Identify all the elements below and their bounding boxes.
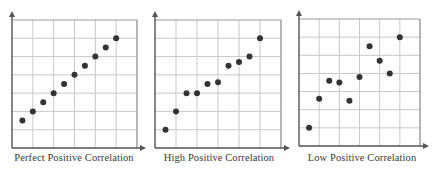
chart-panel-low: Low Positive Correlation [290, 0, 434, 171]
data-points [306, 34, 403, 131]
data-point [346, 98, 352, 104]
data-point [103, 44, 109, 50]
data-point [194, 90, 200, 96]
data-point [236, 59, 242, 65]
chart-caption-low: Low Positive Correlation [290, 152, 434, 163]
data-points [163, 35, 264, 132]
data-point [92, 54, 98, 60]
y-axis-arrow-icon [152, 11, 158, 17]
data-point [226, 63, 232, 69]
data-point [377, 58, 383, 64]
data-point [215, 79, 221, 85]
data-point [163, 127, 169, 133]
data-point [247, 54, 253, 60]
scatter-plot-low [290, 0, 434, 171]
data-point [184, 90, 190, 96]
scatter-plot-high [145, 0, 293, 171]
y-axis-arrow-icon [296, 10, 302, 16]
data-point [257, 35, 263, 41]
data-point [336, 80, 342, 86]
chart-panel-high: High Positive Correlation [145, 0, 293, 171]
data-point [357, 74, 363, 80]
data-point [19, 118, 25, 124]
chart-panel-perfect: Perfect Positive Correlation [0, 0, 148, 171]
data-point [387, 70, 393, 76]
data-point [205, 81, 211, 87]
data-point [316, 96, 322, 102]
data-point [30, 108, 36, 114]
data-point [72, 72, 78, 78]
data-point [173, 108, 179, 114]
chart-caption-high: High Positive Correlation [145, 152, 293, 163]
data-point [40, 99, 46, 105]
y-axis-arrow-icon [9, 11, 15, 17]
data-points [19, 35, 119, 123]
data-point [61, 81, 67, 87]
chart-caption-perfect: Perfect Positive Correlation [0, 152, 148, 163]
data-point [82, 63, 88, 69]
data-point [397, 34, 403, 40]
scatter-plot-perfect [0, 0, 148, 171]
x-axis-arrow-icon [423, 143, 429, 149]
data-point [113, 35, 119, 41]
data-point [306, 125, 312, 131]
data-point [367, 43, 373, 49]
data-point [51, 90, 57, 96]
data-point [326, 78, 332, 84]
